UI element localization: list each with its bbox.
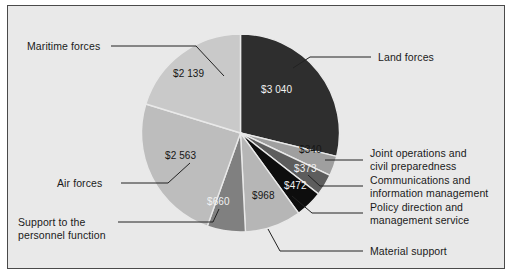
pie-slice-group — [141, 34, 339, 232]
callout-label-maritime-forces: Maritime forces — [27, 40, 100, 53]
callout-label-policy-direction: Policy direction and management service — [370, 201, 469, 226]
value-label-communications: $373 — [294, 163, 317, 174]
value-label-support-personnel: $660 — [207, 196, 230, 207]
callout-label-support-personnel: Support to the personnel function — [18, 216, 106, 241]
value-label-air-forces: $2 563 — [165, 150, 196, 161]
callout-label-air-forces: Air forces — [57, 177, 102, 190]
value-label-material-support: $968 — [252, 190, 275, 201]
callout-label-joint-operations: Joint operations and civil preparedness — [370, 147, 467, 172]
leader-line-material-support — [268, 229, 363, 251]
value-label-maritime-forces: $2 139 — [173, 68, 204, 79]
value-label-joint-operations: $340 — [299, 144, 322, 155]
callout-label-communications: Communications and information managemen… — [370, 174, 488, 199]
value-label-policy-direction: $472 — [284, 180, 307, 191]
callout-label-material-support: Material support — [370, 245, 447, 258]
value-label-land-forces: $3 040 — [261, 84, 292, 95]
callout-label-land-forces: Land forces — [378, 51, 434, 64]
